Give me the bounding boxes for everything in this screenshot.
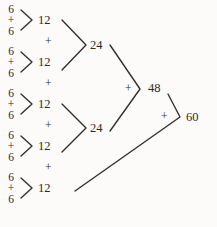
leaf-group-5: 6 + 6: [4, 172, 18, 205]
bracket-48-12-to-60: [75, 94, 180, 191]
total-sum-60: 60: [186, 111, 199, 124]
sum-12-2: 12: [38, 56, 51, 69]
operator-plus-12-12-a: +: [45, 36, 52, 48]
leaf-3-bottom-addend: 6: [4, 110, 18, 121]
leaf-group-4: 6 + 6: [4, 130, 18, 163]
leaf-4-bottom-addend: 6: [4, 152, 18, 163]
sum-12-1: 12: [38, 14, 51, 27]
tree-connector-lines: [0, 0, 217, 227]
sum-24-top: 24: [90, 39, 103, 52]
bracket-12-12-to-24-top: [62, 20, 86, 70]
addition-tree-diagram: 6 + 6 6 + 6 6 + 6 6 + 6 6 + 6 12 12 12 1…: [0, 0, 217, 227]
operator-plus-12-12-d: +: [45, 162, 52, 174]
leaf-5-bottom-addend: 6: [4, 194, 18, 205]
sum-12-3: 12: [38, 98, 51, 111]
operator-plus-12-12-b: +: [45, 78, 52, 90]
operator-plus-12-12-c: +: [45, 120, 52, 132]
leaf-1-bottom-addend: 6: [4, 26, 18, 37]
leaf-group-3: 6 + 6: [4, 88, 18, 121]
leaf-group-2: 6 + 6: [4, 46, 18, 79]
operator-plus-48-12: +: [161, 111, 168, 123]
leaf-bracket-2: [21, 52, 32, 72]
leaf-2-bottom-addend: 6: [4, 68, 18, 79]
leaf-bracket-3: [21, 94, 32, 114]
sum-48: 48: [148, 82, 161, 95]
bracket-12-12-to-24-bottom: [62, 104, 86, 152]
sum-12-5: 12: [38, 182, 51, 195]
leaf-bracket-5: [21, 178, 32, 198]
leaf-bracket-4: [21, 136, 32, 156]
leaf-group-1: 6 + 6: [4, 4, 18, 37]
leaf-bracket-1: [21, 10, 32, 30]
sum-24-bottom: 24: [90, 122, 103, 135]
operator-plus-24-24: +: [125, 83, 132, 95]
sum-12-4: 12: [38, 140, 51, 153]
